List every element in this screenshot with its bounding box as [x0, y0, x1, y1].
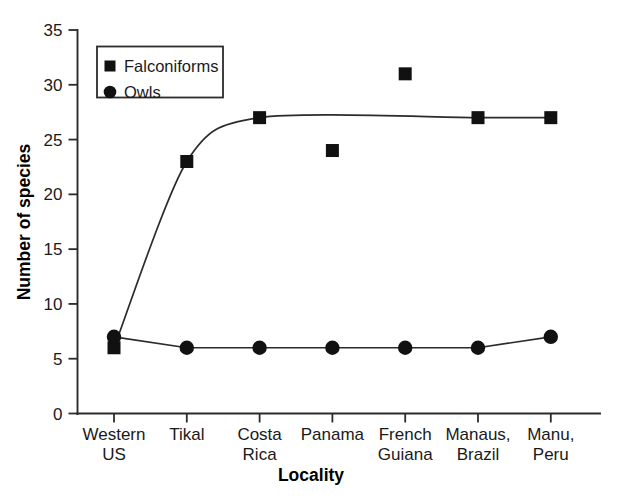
x-tick-label-4-line-0: French [379, 425, 432, 444]
x-tick-label-6-line-1: Peru [533, 445, 569, 464]
x-tick-label-group-4: FrenchGuiana [378, 425, 433, 464]
x-tick-label-group-3: Panama [301, 425, 365, 444]
x-tick-label-group-1: Tikal [169, 425, 204, 444]
y-tick-label-15: 15 [44, 240, 63, 259]
data-point-owls-2 [252, 341, 266, 355]
data-point-falconiforms-2 [253, 111, 266, 124]
data-point-falconiforms-3 [326, 144, 339, 157]
x-tick-label-1-line-0: Tikal [169, 425, 204, 444]
y-axis-title: Number of species [14, 143, 34, 300]
data-point-owls-4 [398, 341, 412, 355]
y-tick-label-30: 30 [44, 76, 63, 95]
x-tick-label-4-line-1: Guiana [378, 445, 433, 464]
chart-legend: FalconiformsOwls [97, 47, 223, 102]
data-point-owls-1 [180, 341, 194, 355]
legend-label-owls: Owls [124, 83, 161, 101]
y-tick-label-0: 0 [53, 405, 62, 424]
x-tick-label-group-2: CostaRica [237, 425, 282, 464]
chart-figure: 05101520253035 WesternUSTikalCostaRicaPa… [0, 0, 640, 500]
data-point-owls-5 [471, 341, 485, 355]
x-tick-label-0-line-0: Western [83, 425, 146, 444]
data-point-owls-3 [325, 341, 339, 355]
legend-marker-falconiforms [105, 61, 116, 72]
data-point-owls-0 [107, 330, 121, 344]
data-point-falconiforms-1 [180, 155, 193, 168]
y-tick-label-10: 10 [44, 295, 63, 314]
x-tick-label-5-line-0: Manaus, [445, 425, 510, 444]
x-tick-label-6-line-0: Manu, [527, 425, 574, 444]
legend-label-falconiforms: Falconiforms [124, 57, 218, 75]
legend-marker-owls [104, 86, 117, 99]
x-axis-title: Locality [278, 465, 344, 485]
y-tick-label-25: 25 [44, 131, 63, 150]
y-tick-label-20: 20 [44, 185, 63, 204]
x-tick-label-0-line-1: US [102, 445, 126, 464]
x-tick-label-5-line-1: Brazil [457, 445, 500, 464]
x-tick-label-2-line-1: Rica [243, 445, 278, 464]
species-richness-line-chart: 05101520253035 WesternUSTikalCostaRicaPa… [0, 0, 640, 500]
x-tick-label-group-6: Manu,Peru [527, 425, 574, 464]
data-point-falconiforms-6 [544, 111, 557, 124]
x-tick-label-3-line-0: Panama [301, 425, 365, 444]
data-point-falconiforms-5 [472, 111, 485, 124]
data-point-owls-6 [544, 330, 558, 344]
y-tick-label-5: 5 [53, 350, 62, 369]
y-tick-label-35: 35 [44, 21, 63, 40]
x-tick-label-2-line-0: Costa [237, 425, 282, 444]
data-point-falconiforms-4 [399, 67, 412, 80]
